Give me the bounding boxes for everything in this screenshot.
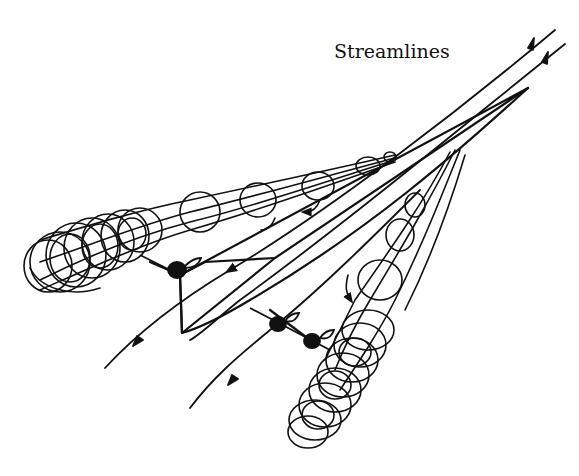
delta-wing-planform — [150, 88, 528, 340]
delta-wing-vortex-illustration — [0, 0, 579, 476]
left-vortex-breakdown — [24, 208, 162, 292]
left-leading-edge-vortex — [40, 152, 396, 290]
diagram-canvas: Streamlines — [0, 0, 579, 476]
